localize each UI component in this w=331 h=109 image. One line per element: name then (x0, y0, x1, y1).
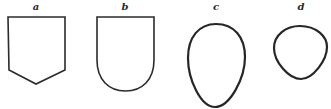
label-a: a (33, 2, 39, 12)
label-b: b (122, 2, 129, 12)
shape-c-egg (188, 24, 245, 107)
shapes-canvas (0, 0, 331, 109)
shape-d-rounded-ovoid (274, 26, 327, 79)
shape-a-pointed-shield (8, 17, 65, 84)
shape-b-rounded-shield (97, 17, 154, 91)
label-d: d (298, 2, 305, 12)
shield-shapes-figure: a b c d (0, 0, 331, 109)
label-c: c (213, 2, 219, 12)
